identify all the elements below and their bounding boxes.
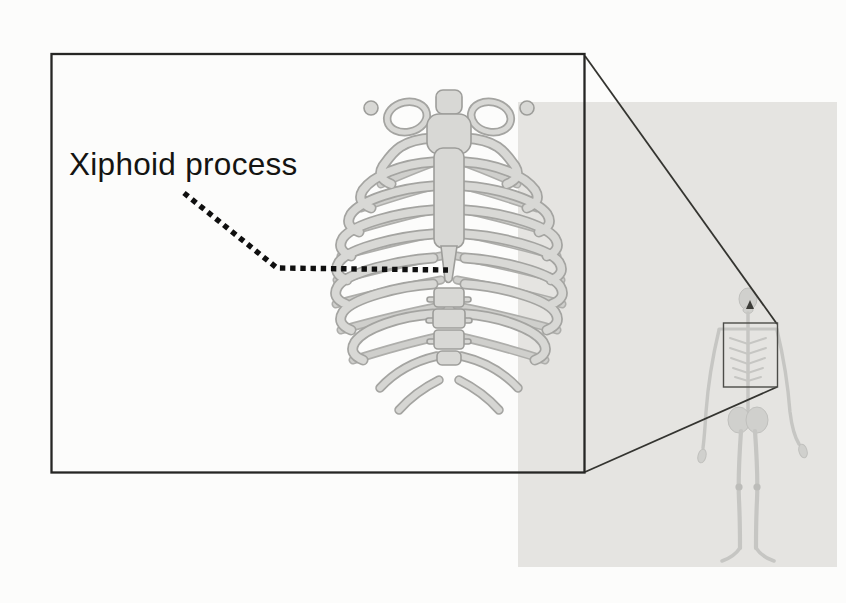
lumbar-vertebra	[434, 330, 464, 349]
textbook-figure-page: Xiphoid process	[0, 0, 846, 603]
skeleton-pelvis	[746, 407, 768, 433]
anatomy-figure-graphic	[0, 0, 846, 603]
sternum-and-vertebrae	[426, 90, 472, 365]
cervical-vertebra	[436, 90, 462, 114]
highlight-region	[518, 102, 837, 567]
skeleton-left-knee	[735, 483, 742, 490]
sternum-body	[434, 148, 464, 248]
lumbar-vertebra	[437, 351, 461, 365]
lumbar-vertebra	[434, 288, 464, 307]
skeleton-right-knee	[753, 483, 760, 490]
lumbar-vertebra	[433, 309, 465, 328]
xiphoid-process-label: Xiphoid process	[69, 146, 298, 183]
